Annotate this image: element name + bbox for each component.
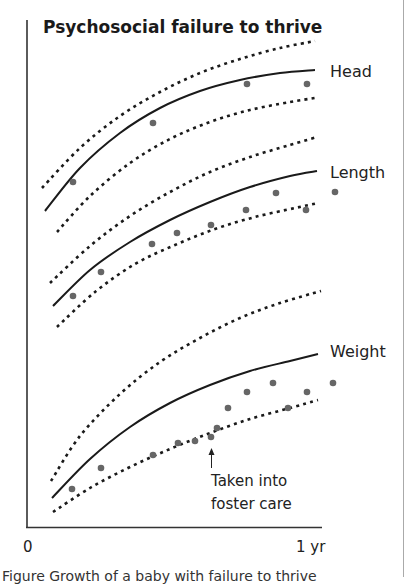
weight-data-point bbox=[285, 405, 292, 412]
weight-data-point bbox=[208, 434, 215, 441]
page-border-line bbox=[403, 0, 404, 577]
length-data-point bbox=[98, 269, 105, 276]
length-data-point bbox=[149, 241, 156, 248]
x-tick-start: 0 bbox=[23, 538, 33, 556]
weight-data-point bbox=[192, 438, 199, 445]
length-data-point bbox=[70, 293, 77, 300]
annotation-line-1: Taken into bbox=[210, 472, 287, 490]
weight-data-point bbox=[214, 425, 221, 432]
reference-curves bbox=[42, 41, 321, 512]
length-data-point bbox=[174, 230, 181, 237]
length-data-point bbox=[332, 189, 339, 196]
weight-data-point bbox=[69, 486, 76, 493]
x-tick-end: 1 yr bbox=[296, 538, 326, 556]
series-label-head: Head bbox=[330, 62, 372, 81]
weight-data-point bbox=[330, 380, 337, 387]
head-data-point bbox=[150, 120, 157, 127]
length-data-point bbox=[303, 207, 310, 214]
head-data-point bbox=[304, 81, 311, 88]
weight-data-point bbox=[150, 452, 157, 459]
foster-care-annotation: Taken into foster care bbox=[209, 448, 292, 513]
head-data-point bbox=[244, 81, 251, 88]
series-label-weight: Weight bbox=[330, 342, 386, 361]
annotation-line-2: foster care bbox=[211, 495, 292, 513]
weight-data-point bbox=[225, 405, 232, 412]
head-data-point bbox=[70, 179, 77, 186]
weight-data-point bbox=[244, 389, 251, 396]
length-data-point bbox=[243, 207, 250, 214]
chart-title: Psychosocial failure to thrive bbox=[43, 17, 322, 37]
length-data-point bbox=[273, 190, 280, 197]
head-median-solid-curve bbox=[45, 70, 315, 211]
weight-data-point bbox=[304, 389, 311, 396]
weight-data-point bbox=[175, 440, 182, 447]
weight-data-point bbox=[270, 380, 277, 387]
weight-upper-dotted-curve bbox=[51, 291, 321, 481]
length-data-point bbox=[208, 222, 215, 229]
figure-caption: Figure Growth of a baby with failure to … bbox=[2, 568, 317, 584]
arrow-up-icon bbox=[209, 448, 215, 455]
weight-data-point bbox=[98, 465, 105, 472]
series-label-length: Length bbox=[330, 163, 385, 182]
